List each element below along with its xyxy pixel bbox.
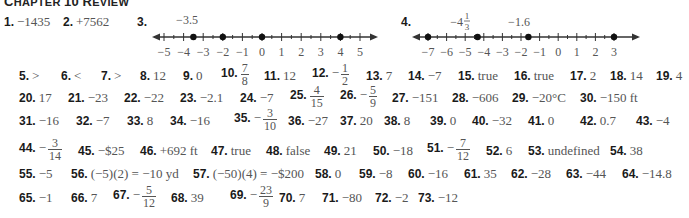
answer-73: 73.−12 xyxy=(418,190,458,206)
answer-61: 61.35 xyxy=(464,166,497,182)
answer-29: 29.−20°C xyxy=(512,90,566,106)
answer-50: 50.−18 xyxy=(373,143,413,159)
answer-15: 15.true xyxy=(458,68,498,84)
answer-58: 58.0 xyxy=(315,166,341,182)
answer-48: 48.false xyxy=(266,143,310,159)
answer-13: 13.7 xyxy=(366,68,392,84)
answer-28: 28.−606 xyxy=(452,90,499,106)
svg-text:5: 5 xyxy=(357,45,363,59)
answer-23: 23.−2.1 xyxy=(180,90,223,106)
answer-56: 56.(−5)(2) = −10 yd xyxy=(71,166,179,182)
answer-47: 47.true xyxy=(211,143,251,159)
svg-text:1: 1 xyxy=(574,45,580,59)
answer-1: 1.−1435 xyxy=(4,14,50,30)
chapter-title: CHAPTER 10 REVIEW xyxy=(4,0,129,9)
answer-25: 25.415 xyxy=(290,84,324,109)
point-label: −3.5 xyxy=(176,13,198,27)
answer-66: 66.7 xyxy=(71,190,97,206)
answer-40: 40.−32 xyxy=(472,113,512,129)
answer-8: 8.12 xyxy=(140,68,166,84)
answer-30: 30.−150 ft xyxy=(580,90,638,106)
svg-text:−3: −3 xyxy=(496,45,509,59)
answer-45: 45.−$25 xyxy=(78,143,125,159)
answer-41: 41.0 xyxy=(528,113,554,129)
svg-text:3: 3 xyxy=(465,22,470,32)
answer-63: 63.−44 xyxy=(566,166,606,182)
answer-11: 11.12 xyxy=(264,68,296,84)
answer-52: 52.6 xyxy=(486,143,512,159)
number-line-3: −3.5 −5 −4 −3 −2 −1 0 1 2 3 4 5 xyxy=(150,12,385,62)
answer-24: 24.−7 xyxy=(240,90,274,106)
answer-36: 36.−27 xyxy=(288,113,328,129)
answer-3: 3. xyxy=(137,14,150,30)
svg-text:0: 0 xyxy=(259,45,265,59)
answer-35: 35.−310 xyxy=(234,107,277,132)
answer-27: 27.−151 xyxy=(392,90,439,106)
answer-16: 16.true xyxy=(514,68,554,84)
answer-5: 5.> xyxy=(19,68,39,84)
svg-text:2: 2 xyxy=(298,45,304,59)
answer-22: 22.−22 xyxy=(124,90,164,106)
answer-68: 68.39 xyxy=(171,190,204,206)
svg-text:−6: −6 xyxy=(440,45,453,59)
answer-7: 7.> xyxy=(101,68,121,84)
answer-44: 44.−314 xyxy=(19,137,62,162)
svg-text:−2: −2 xyxy=(515,45,528,59)
svg-text:4: 4 xyxy=(337,45,343,59)
svg-text:−4: −4 xyxy=(477,45,490,59)
svg-text:−1: −1 xyxy=(533,45,546,59)
svg-text:3: 3 xyxy=(611,45,617,59)
svg-text:0: 0 xyxy=(555,45,561,59)
answer-32: 32.−7 xyxy=(76,113,110,129)
answer-55: 55.−5 xyxy=(19,166,53,182)
answer-2: 2.+7562 xyxy=(63,14,109,30)
answer-33: 33.8 xyxy=(127,113,153,129)
svg-text:−5: −5 xyxy=(158,45,171,59)
answer-46: 46.+692 ft xyxy=(140,143,198,159)
answer-10: 10.78 xyxy=(221,62,249,87)
svg-text:−7: −7 xyxy=(422,45,435,59)
answer-67: 67.−512 xyxy=(113,184,156,209)
answer-70: 70.7 xyxy=(279,190,305,206)
answer-57: 57.(−50)(4) = −$200 xyxy=(193,166,304,182)
answer-6: 6.< xyxy=(61,68,81,84)
answer-43: 43.−4 xyxy=(636,113,670,129)
answer-54: 54.38 xyxy=(610,143,643,159)
answer-17: 17.2 xyxy=(570,68,596,84)
answer-65: 65.−1 xyxy=(19,190,53,206)
number-line-4: −4 1 3 −1.6 −7 −6 −5 −4 −3 −2 −1 0 1 2 3 xyxy=(410,10,645,62)
svg-text:−2: −2 xyxy=(216,45,229,59)
answer-26: 26.−59 xyxy=(340,84,377,109)
answer-14: 14.−7 xyxy=(408,68,442,84)
svg-text:1: 1 xyxy=(279,45,285,59)
svg-text:1: 1 xyxy=(465,11,470,21)
answer-69: 69.−239 xyxy=(230,184,273,209)
answer-38: 38.8 xyxy=(384,113,410,129)
svg-text:−3: −3 xyxy=(197,45,210,59)
answer-53: 53.undefined xyxy=(528,143,600,159)
answer-37: 37.20 xyxy=(340,113,373,129)
answer-42: 42.0.7 xyxy=(580,113,616,129)
svg-text:−4: −4 xyxy=(177,45,190,59)
answer-18: 18.14 xyxy=(610,68,643,84)
svg-text:3: 3 xyxy=(318,45,324,59)
point-label-b: −1.6 xyxy=(508,15,530,29)
answer-49: 49.21 xyxy=(324,143,357,159)
svg-text:−5: −5 xyxy=(459,45,472,59)
answer-19: 19.4 xyxy=(656,68,682,84)
answer-21: 21.−23 xyxy=(68,90,108,106)
svg-text:−1: −1 xyxy=(236,45,249,59)
answer-60: 60.−16 xyxy=(408,166,448,182)
answer-62: 62.−28 xyxy=(511,166,551,182)
answer-51: 51.−712 xyxy=(427,137,470,162)
answer-20: 20.17 xyxy=(19,90,52,106)
answer-31: 31.−16 xyxy=(19,113,59,129)
answer-34: 34.−16 xyxy=(170,113,210,129)
answer-64: 64.−14.8 xyxy=(622,166,672,182)
svg-text:2: 2 xyxy=(592,45,598,59)
answer-9: 9.0 xyxy=(183,68,203,84)
answer-72: 72.−2 xyxy=(375,190,409,206)
point-label-a: −4 xyxy=(450,15,463,29)
answer-71: 71.−80 xyxy=(322,190,362,206)
answer-39: 39.0 xyxy=(430,113,456,129)
